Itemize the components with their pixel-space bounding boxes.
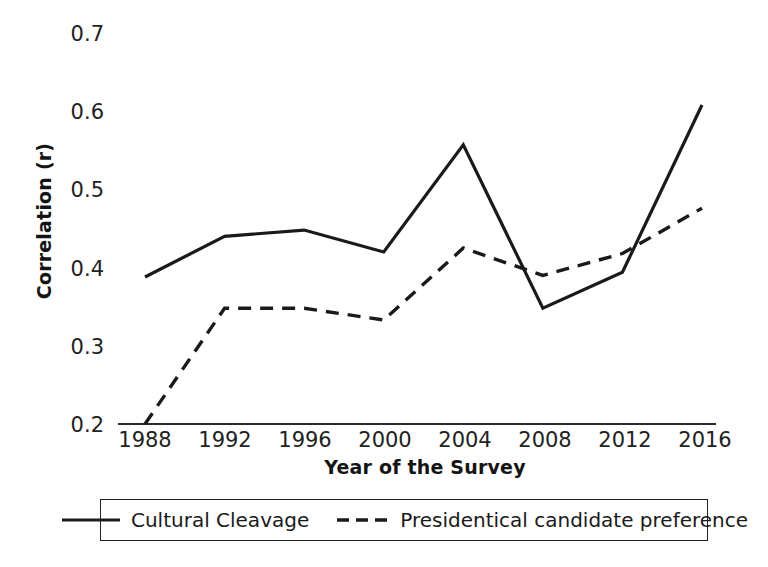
x-tick-label-2012: 2012 xyxy=(585,428,665,452)
x-tick-label-1992: 1992 xyxy=(185,428,265,452)
series-line-cultural-cleavage xyxy=(145,105,702,308)
x-tick-label-2016: 2016 xyxy=(665,428,745,452)
legend-label-cultural-cleavage: Cultural Cleavage xyxy=(131,508,309,532)
legend-entry-cultural-cleavage: Cultural Cleavage xyxy=(60,508,309,532)
legend-label-presidential-candidate-preference: Presidentical candidate preference xyxy=(400,508,748,532)
series-line-presidential-candidate-preference xyxy=(145,208,702,424)
legend-dashed-line-icon xyxy=(335,513,391,527)
x-tick-label-2000: 2000 xyxy=(345,428,425,452)
chart-figure: Correlation (r) 0.7 0.6 0.5 0.4 0.3 0.2 … xyxy=(0,0,768,567)
legend-entry-presidential-candidate-preference: Presidentical candidate preference xyxy=(335,508,748,532)
legend-solid-line-icon xyxy=(60,513,122,527)
chart-legend: Cultural Cleavage Presidentical candidat… xyxy=(100,499,708,541)
x-tick-label-1988: 1988 xyxy=(105,428,185,452)
x-tick-label-2004: 2004 xyxy=(425,428,505,452)
x-tick-label-2008: 2008 xyxy=(505,428,585,452)
x-axis-title: Year of the Survey xyxy=(140,456,710,478)
plot-area xyxy=(0,0,768,567)
x-tick-label-1996: 1996 xyxy=(265,428,345,452)
